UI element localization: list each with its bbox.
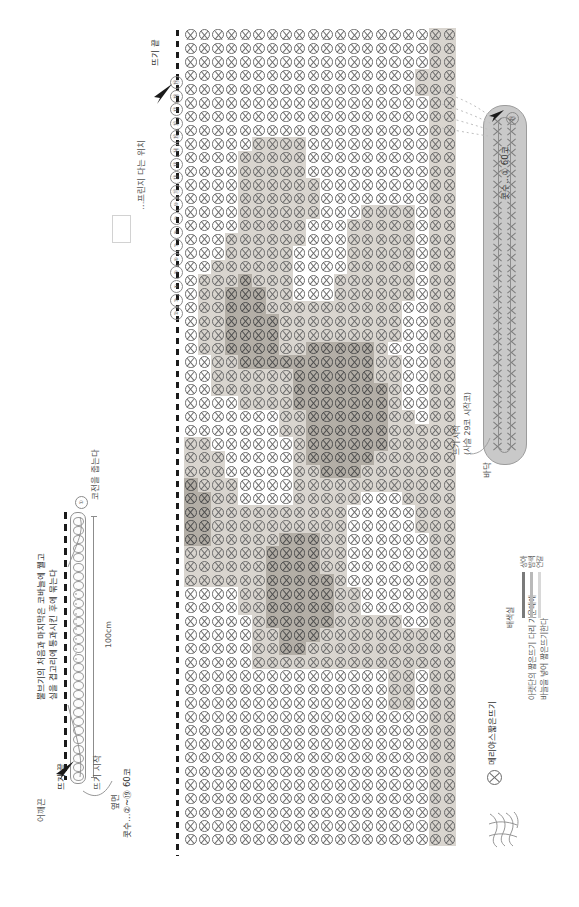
chart-cell <box>334 751 348 765</box>
chart-cell <box>306 533 320 547</box>
chart-cell <box>374 342 388 356</box>
chart-cell <box>429 833 443 847</box>
chart-cell <box>266 601 280 615</box>
chart-cell <box>415 819 429 833</box>
chart-cell <box>211 587 225 601</box>
chart-cell <box>388 465 402 479</box>
chart-cell <box>442 410 456 424</box>
chart-cell <box>429 383 443 397</box>
chart-cell <box>334 342 348 356</box>
legend-color-header: 배색실 <box>506 607 516 628</box>
chart-cell <box>402 778 416 792</box>
chart-cell <box>361 137 375 151</box>
chart-cell <box>374 42 388 56</box>
chart-cell <box>266 642 280 656</box>
chart-cell <box>415 260 429 274</box>
chart-cell <box>429 274 443 288</box>
chart-cell <box>306 819 320 833</box>
chart-cell <box>306 683 320 697</box>
row-number: ⑯ <box>170 117 183 130</box>
chart-cell <box>211 574 225 588</box>
chart-cell <box>184 233 198 247</box>
chart-cell <box>293 696 307 710</box>
chart-cell <box>320 314 334 328</box>
chart-cell <box>347 96 361 110</box>
chart-cell <box>442 601 456 615</box>
chart-cell <box>442 696 456 710</box>
chart-cell <box>198 383 212 397</box>
chart-cell <box>211 123 225 137</box>
chart-row <box>388 28 402 301</box>
chart-cell <box>293 710 307 724</box>
chart-cell <box>347 355 361 369</box>
chart-cell <box>374 710 388 724</box>
chart-cell <box>334 274 348 288</box>
chart-cell <box>211 792 225 806</box>
chart-cell <box>361 533 375 547</box>
chart-cell <box>388 451 402 465</box>
chart-cell <box>361 274 375 288</box>
chart-cell <box>429 519 443 533</box>
chart-cell <box>442 219 456 233</box>
chart-cell <box>347 819 361 833</box>
chart-cell <box>402 328 416 342</box>
chart-cell <box>225 560 239 574</box>
chart-cell <box>293 123 307 137</box>
chart-cell <box>211 301 225 315</box>
chart-cell <box>306 314 320 328</box>
strap-leader-curves <box>28 505 148 805</box>
chart-cell <box>198 137 212 151</box>
chart-cell <box>279 492 293 506</box>
chart-cell <box>252 806 266 820</box>
chart-cell <box>374 833 388 847</box>
chart-cell <box>374 628 388 642</box>
chart-cell <box>252 342 266 356</box>
chart-cell <box>225 205 239 219</box>
chart-cell <box>402 233 416 247</box>
chart-cell <box>238 655 252 669</box>
chart-cell <box>361 123 375 137</box>
chart-cell <box>238 233 252 247</box>
chart-cell <box>334 69 348 83</box>
chart-cell <box>252 533 266 547</box>
chart-cell <box>266 342 280 356</box>
chart-cell <box>361 260 375 274</box>
chart-cell <box>266 819 280 833</box>
chart-cell <box>198 42 212 56</box>
chart-cell <box>361 587 375 601</box>
chart-cell <box>415 178 429 192</box>
chart-cell <box>442 655 456 669</box>
chart-cell <box>388 833 402 847</box>
chart-cell <box>388 96 402 110</box>
chart-cell <box>198 683 212 697</box>
chart-cell <box>184 274 198 288</box>
chart-cell <box>266 778 280 792</box>
chart-cell <box>402 437 416 451</box>
chart-cell <box>306 696 320 710</box>
chart-row <box>252 28 266 301</box>
stitch-illustration <box>487 810 521 850</box>
chart-cell <box>252 465 266 479</box>
chart-row <box>306 28 320 301</box>
chart-cell <box>198 574 212 588</box>
chart-cell <box>266 737 280 751</box>
row-number: ⑭ <box>170 144 183 157</box>
chart-cell <box>361 751 375 765</box>
chart-cell <box>184 219 198 233</box>
chart-cell <box>442 669 456 683</box>
chart-cell <box>361 355 375 369</box>
chart-cell <box>402 642 416 656</box>
chart-cell <box>320 287 334 301</box>
chart-cell <box>402 465 416 479</box>
chart-cell <box>402 819 416 833</box>
bottom-connector-dots <box>440 90 510 170</box>
chart-cell <box>374 55 388 69</box>
chart-cell <box>198 178 212 192</box>
chart-cell <box>293 83 307 97</box>
chart-cell <box>429 533 443 547</box>
chart-cell <box>347 424 361 438</box>
chart-cell <box>238 287 252 301</box>
chart-cell <box>279 328 293 342</box>
chart-cell <box>225 55 239 69</box>
chart-cell <box>402 560 416 574</box>
